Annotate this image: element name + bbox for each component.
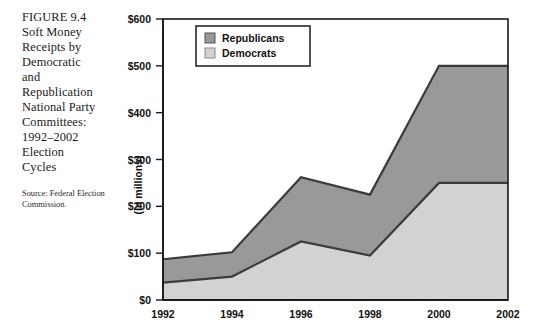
legend-label-republicans: Republicans <box>222 32 285 44</box>
x-axis-tick-label: 1996 <box>289 308 313 320</box>
x-axis: 199219941996199820002002 <box>151 300 520 320</box>
legend-swatch-democrats <box>205 48 215 58</box>
y-axis-title: (in millions) <box>132 156 144 215</box>
y-axis-tick-label: $600 <box>128 13 152 25</box>
x-axis-tick-label: 1994 <box>220 308 244 320</box>
figure-container: FIGURE 9.4 Soft Money Receipts by Democr… <box>0 0 548 335</box>
y-axis-tick-label: $400 <box>128 107 152 119</box>
legend-swatch-republicans <box>205 33 215 43</box>
x-axis-tick-label: 1998 <box>358 308 382 320</box>
legend-label-democrats: Democrats <box>222 47 276 59</box>
chart-plot-area: $0$100$200$300$400$500$600 1992199419961… <box>0 0 548 335</box>
y-axis-tick-label: $100 <box>128 247 152 259</box>
x-axis-tick-label: 1992 <box>151 308 175 320</box>
x-axis-tick-label: 2002 <box>496 308 520 320</box>
stacked-area-chart: $0$100$200$300$400$500$600 1992199419961… <box>0 0 548 335</box>
y-axis-tick-label: $500 <box>128 60 152 72</box>
x-axis-tick-label: 2000 <box>427 308 451 320</box>
chart-legend: Republicans Democrats <box>196 26 310 66</box>
y-axis-tick-label: $0 <box>139 294 151 306</box>
